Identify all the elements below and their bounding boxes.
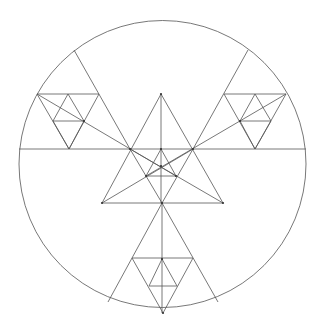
line-segment [108,203,162,302]
vertex-point [160,165,162,167]
line-segment [162,259,177,286]
line-segment [193,50,248,149]
vertex-point [161,202,163,204]
geometric-diagram [0,0,324,330]
vertex-point [145,175,147,177]
line-segment [146,94,286,176]
line-segments [19,50,306,313]
line-segment [255,94,271,121]
line-segment [240,121,255,149]
vertex-point [161,258,163,260]
line-segment [53,121,69,149]
vertex-point [162,312,164,314]
line-segment [255,121,271,149]
vertex-point [83,120,85,122]
vertex-point [160,93,162,95]
line-segment [102,149,193,203]
diagram-canvas [0,0,324,330]
vertex-point [239,120,241,122]
line-segment [69,121,84,149]
line-segment [53,94,68,121]
line-segment [161,94,223,203]
vertex-point [175,175,177,177]
vertex-point [160,148,162,150]
outer-circle [19,21,306,308]
line-segment [74,50,130,149]
line-segment [149,259,162,286]
line-segment [162,203,218,302]
vertex-point [222,202,224,204]
vertex-point [129,148,131,150]
vertex-point [101,202,103,204]
vertex-point [192,148,194,150]
